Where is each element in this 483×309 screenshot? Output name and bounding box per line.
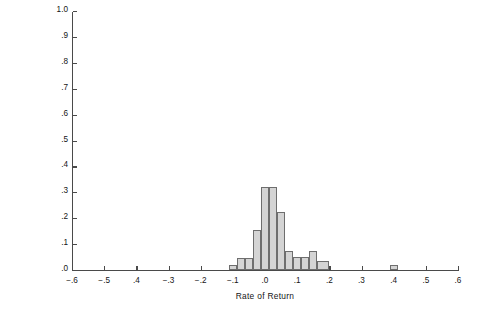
- x-tick-label: .5: [422, 276, 429, 285]
- histogram-bar: [293, 257, 301, 270]
- y-tick-label: .6: [46, 109, 68, 118]
- y-tick-mark: [73, 115, 77, 116]
- y-tick-mark: [73, 218, 77, 219]
- histogram-bar: [253, 230, 261, 270]
- x-tick-mark: [201, 266, 202, 271]
- x-tick-label: −.2: [195, 276, 207, 285]
- x-tick-label: .6: [455, 276, 462, 285]
- y-tick-label: 1.0: [46, 5, 68, 14]
- y-tick-mark: [73, 244, 77, 245]
- x-tick-label: .4: [133, 276, 140, 285]
- x-tick-label: .4: [390, 276, 397, 285]
- x-tick-mark: [104, 266, 105, 271]
- histogram-bar: [261, 187, 269, 270]
- y-tick-mark: [73, 37, 77, 38]
- histogram-bar: [245, 258, 253, 270]
- y-tick-label: .5: [46, 135, 68, 144]
- histogram-bar: [285, 251, 293, 270]
- y-tick-mark: [73, 63, 77, 64]
- y-tick-label: .4: [46, 160, 68, 169]
- x-tick-mark: [362, 266, 363, 271]
- y-tick-mark: [73, 192, 77, 193]
- x-tick-label: .3: [358, 276, 365, 285]
- y-tick-label: .1: [46, 238, 68, 247]
- x-tick-mark: [426, 266, 427, 271]
- x-tick-label: .2: [326, 276, 333, 285]
- y-tick-label: .7: [46, 83, 68, 92]
- x-tick-label: .1: [294, 276, 301, 285]
- y-tick-mark: [73, 270, 77, 271]
- x-tick-label: .0: [262, 276, 269, 285]
- x-axis-title: Rate of Return: [72, 291, 458, 301]
- histogram-figure: Percentage Frequency .0.1.2.3.4.5.6.7.8.…: [0, 0, 483, 309]
- y-tick-mark: [73, 141, 77, 142]
- y-tick-mark: [73, 166, 77, 167]
- histogram-bar: [277, 212, 285, 270]
- x-tick-label: −.1: [227, 276, 239, 285]
- histogram-bar: [269, 187, 277, 270]
- x-tick-mark: [136, 266, 137, 271]
- histogram-bar: [237, 258, 245, 270]
- histogram-bar: [390, 265, 398, 270]
- x-tick-mark: [458, 266, 459, 271]
- x-tick-label: −.3: [163, 276, 175, 285]
- y-tick-mark: [73, 89, 77, 90]
- x-tick-label: −.6: [66, 276, 78, 285]
- y-tick-label: .9: [46, 31, 68, 40]
- plot-area: .0.1.2.3.4.5.6.7.8.91.0 −.6−.5.4−.3−.2−.…: [72, 12, 458, 271]
- x-tick-label: −.5: [98, 276, 110, 285]
- y-tick-label: .8: [46, 57, 68, 66]
- y-tick-mark: [73, 11, 77, 12]
- y-tick-label: .3: [46, 186, 68, 195]
- y-tick-label: .0: [46, 264, 68, 273]
- y-tick-label: .2: [46, 212, 68, 221]
- x-tick-mark: [329, 266, 330, 271]
- histogram-bar: [317, 261, 329, 270]
- histogram-bar: [309, 251, 317, 270]
- x-tick-mark: [169, 266, 170, 271]
- x-tick-mark: [72, 266, 73, 271]
- histogram-bar: [301, 257, 309, 270]
- histogram-bar: [229, 265, 237, 270]
